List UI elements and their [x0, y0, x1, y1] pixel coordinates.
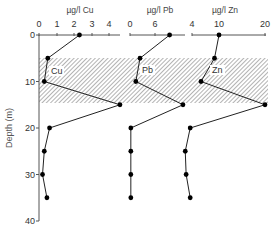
depth-axis: 010203040 — [25, 30, 39, 226]
data-point — [45, 56, 50, 61]
axis-tick-label: 3 — [89, 19, 94, 29]
hatched-depth-band — [39, 58, 268, 103]
svg-text:Pb: Pb — [142, 65, 153, 75]
cu-axis: µg/l Cu01234 — [36, 5, 120, 36]
data-point — [45, 195, 50, 200]
data-point — [40, 172, 45, 177]
cu-series — [40, 33, 122, 201]
data-point — [212, 56, 217, 61]
depth-profile-chart: 010203040 Depth (m) µg/l Cu01234µg/l Pb0… — [0, 0, 277, 228]
pb-inline-label: Pb — [140, 65, 155, 75]
axis-tick-label: 2 — [71, 19, 76, 29]
pb-series — [128, 33, 185, 201]
axis-tick-label: 20 — [260, 19, 270, 29]
data-point — [77, 33, 82, 38]
depth-tick-label: 0 — [30, 30, 35, 40]
axis-tick-label: 4 — [106, 19, 111, 29]
depth-tick-label: 10 — [25, 77, 35, 87]
zn-inline-label: Zn — [210, 65, 225, 75]
data-point — [183, 149, 188, 154]
pb-axis-title: µg/l Pb — [147, 5, 174, 15]
svg-text:Zn: Zn — [212, 65, 223, 75]
axis-tick-label: 0 — [36, 19, 41, 29]
data-point — [167, 33, 172, 38]
axis-tick-label: 0 — [127, 19, 132, 29]
data-point — [138, 56, 143, 61]
depth-tick-label: 30 — [25, 170, 35, 180]
zn-series — [183, 33, 268, 201]
axis-tick-label: 6 — [152, 19, 157, 29]
data-point — [128, 172, 133, 177]
data-point — [188, 126, 193, 131]
data-point — [47, 126, 52, 131]
data-point — [128, 195, 133, 200]
data-point — [184, 172, 189, 177]
depth-tick-label: 40 — [25, 216, 35, 226]
depth-axis-label: Depth (m) — [4, 108, 14, 148]
data-point — [128, 149, 133, 154]
zn-axis-title: µg/l Zn — [212, 5, 238, 15]
axis-tick-label: 4 — [189, 19, 194, 29]
data-point — [199, 79, 204, 84]
data-point — [133, 79, 138, 84]
depth-tick-label: 20 — [25, 123, 35, 133]
axis-tick-label: 10 — [214, 19, 224, 29]
series-lines — [40, 33, 267, 201]
cu-inline-label: Cu — [49, 66, 64, 76]
data-point — [42, 149, 47, 154]
data-point — [181, 102, 186, 107]
concentration-axes: µg/l Cu01234µg/l Pb06µg/l Zn41020 — [36, 5, 270, 36]
data-point — [118, 102, 123, 107]
cu-axis-title: µg/l Cu — [66, 5, 93, 15]
svg-text:Cu: Cu — [51, 66, 63, 76]
data-point — [188, 195, 193, 200]
axis-tick-label: 1 — [54, 19, 59, 29]
zn-axis: µg/l Zn41020 — [189, 5, 270, 36]
data-point — [42, 79, 47, 84]
data-point — [128, 126, 133, 131]
pb-axis: µg/l Pb06 — [127, 5, 185, 36]
data-point — [217, 33, 222, 38]
data-point — [263, 102, 268, 107]
